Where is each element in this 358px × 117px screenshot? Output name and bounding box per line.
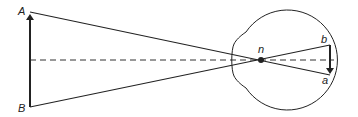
eye-image-formation-diagram: A B n b a xyxy=(0,0,358,117)
label-a: a xyxy=(322,74,328,86)
label-n: n xyxy=(258,43,264,55)
label-b: b xyxy=(321,33,327,45)
label-A: A xyxy=(17,5,25,17)
ray-B-to-b xyxy=(30,45,330,107)
nodal-point-dot xyxy=(258,57,264,63)
label-B: B xyxy=(18,102,25,114)
ray-A-to-a xyxy=(30,12,330,75)
